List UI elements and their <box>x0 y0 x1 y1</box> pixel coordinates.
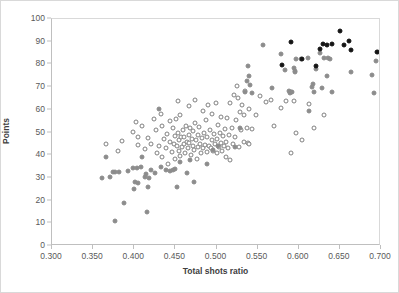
data-point <box>247 73 252 78</box>
data-point <box>206 103 211 108</box>
data-point <box>226 132 231 137</box>
x-axis-tick-mark <box>298 245 299 249</box>
data-point <box>122 200 127 205</box>
data-point <box>269 86 274 91</box>
data-point <box>243 89 248 94</box>
data-point <box>160 123 165 128</box>
data-point <box>290 90 295 95</box>
data-point <box>348 47 353 52</box>
data-point <box>173 166 178 171</box>
data-point <box>226 146 231 151</box>
x-axis-tick-label: 0.400 <box>110 251 156 261</box>
data-point <box>324 73 329 78</box>
data-point <box>330 42 335 47</box>
data-point <box>144 210 149 215</box>
data-point <box>116 170 121 175</box>
data-point <box>293 70 298 75</box>
data-point <box>282 68 287 73</box>
data-point <box>248 82 253 87</box>
data-point <box>115 148 120 153</box>
data-point <box>314 63 319 68</box>
data-point <box>312 90 317 95</box>
data-point <box>172 156 177 161</box>
data-point <box>233 145 238 150</box>
data-point <box>278 105 283 110</box>
x-axis-tick-label: 0.600 <box>275 251 321 261</box>
data-point <box>247 142 252 147</box>
y-axis-tick-label: 50 <box>5 127 45 137</box>
data-point <box>175 184 180 189</box>
y-axis-tick-label: 90 <box>5 36 45 46</box>
data-point <box>228 100 233 105</box>
x-axis-tick-label: 0.350 <box>69 251 115 261</box>
data-point <box>232 135 237 140</box>
data-point <box>194 156 199 161</box>
data-point <box>151 116 156 121</box>
data-point <box>139 124 144 129</box>
data-point <box>178 113 183 118</box>
data-point <box>205 162 210 167</box>
data-point <box>146 184 151 189</box>
data-point <box>374 58 379 63</box>
data-point <box>318 46 323 51</box>
data-point <box>178 160 183 165</box>
data-point <box>289 40 294 45</box>
data-point <box>200 108 205 113</box>
data-point <box>328 56 333 61</box>
data-point <box>139 155 144 160</box>
data-point <box>249 127 254 132</box>
data-point <box>221 133 226 138</box>
scatter-chart-figure: 0102030405060708090100 0.3000.3500.4000.… <box>0 0 399 293</box>
data-point <box>283 99 288 104</box>
data-point <box>235 96 240 101</box>
data-point <box>225 115 230 120</box>
data-point <box>249 90 254 95</box>
data-point <box>310 81 315 86</box>
data-point <box>374 49 379 54</box>
y-axis-tick-label: 60 <box>5 104 45 114</box>
x-axis-tick-label: 0.550 <box>234 251 280 261</box>
data-point <box>341 43 346 48</box>
data-point <box>234 118 239 123</box>
data-point <box>324 43 329 48</box>
data-point <box>272 124 277 129</box>
x-axis-tick-mark <box>174 245 175 249</box>
data-point <box>245 63 250 68</box>
data-point <box>104 155 109 160</box>
data-point <box>311 126 316 131</box>
data-point <box>136 180 141 185</box>
data-point <box>198 150 203 155</box>
data-point <box>183 150 188 155</box>
x-axis-tick-mark <box>257 245 258 249</box>
data-point <box>222 127 227 132</box>
y-axis-tick-label: 80 <box>5 58 45 68</box>
data-point <box>369 72 374 77</box>
data-point <box>306 102 311 107</box>
x-axis-tick-label: 0.650 <box>316 251 362 261</box>
data-point <box>163 146 168 151</box>
y-axis-tick-label: 40 <box>5 149 45 159</box>
data-points-layer <box>52 19 379 244</box>
data-point <box>153 128 158 133</box>
data-point <box>184 171 189 176</box>
data-point <box>305 56 310 61</box>
data-point <box>212 131 217 136</box>
data-point <box>165 131 170 136</box>
data-point <box>104 142 109 147</box>
data-point <box>192 180 197 185</box>
data-point <box>119 139 124 144</box>
data-point <box>197 124 202 129</box>
data-point <box>199 136 204 141</box>
x-axis-title: Total shots ratio <box>51 266 380 276</box>
data-point <box>253 113 258 118</box>
data-point <box>100 175 105 180</box>
data-point <box>220 148 225 153</box>
data-point <box>235 83 240 88</box>
data-point <box>203 118 208 123</box>
x-axis-tick-label: 0.700 <box>357 251 399 261</box>
data-point <box>133 120 138 125</box>
data-point <box>138 164 143 169</box>
data-point <box>136 142 141 147</box>
data-point <box>125 169 130 174</box>
data-point <box>349 69 354 74</box>
